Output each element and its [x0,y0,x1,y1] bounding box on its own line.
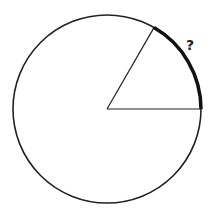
slanted-radius [107,28,154,109]
circle-diagram: ? [0,0,212,215]
unknown-arc-label: ? [186,37,194,53]
